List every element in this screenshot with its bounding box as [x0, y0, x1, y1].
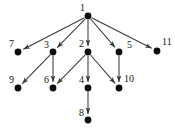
graph-edge	[91, 55, 115, 83]
graph-node-3[interactable]	[50, 49, 57, 56]
graph-node-label-8: 8	[79, 107, 84, 118]
graph-node-5[interactable]	[116, 49, 123, 56]
graph-node-label-6: 6	[44, 74, 49, 85]
label-layer: 1234567891011	[9, 2, 172, 118]
graph-node-label-11: 11	[162, 36, 172, 47]
graph-node-9[interactable]	[15, 85, 22, 92]
graph-node-label-10: 10	[124, 73, 134, 84]
directed-graph-figure: 1234567891011	[0, 0, 175, 132]
graph-node-label-4: 4	[79, 74, 84, 85]
graph-node-label-2: 2	[79, 38, 84, 49]
graph-node-label-3: 3	[44, 39, 49, 50]
graph-node-10[interactable]	[116, 85, 123, 92]
graph-edge	[92, 18, 152, 48]
graph-edge	[23, 18, 84, 49]
graph-node-label-9: 9	[9, 74, 14, 85]
graph-node-label-1: 1	[80, 2, 85, 13]
graph-node-7[interactable]	[15, 49, 22, 56]
graph-node-2[interactable]	[85, 49, 92, 56]
graph-node-label-7: 7	[9, 38, 14, 49]
graph-node-1[interactable]	[85, 13, 92, 20]
graph-node-4[interactable]	[85, 85, 92, 92]
graph-canvas: 1234567891011	[0, 0, 175, 132]
edge-layer	[22, 18, 151, 114]
graph-node-8[interactable]	[85, 117, 92, 124]
graph-node-11[interactable]	[154, 48, 161, 55]
graph-node-label-5: 5	[127, 39, 132, 50]
graph-node-6[interactable]	[50, 85, 57, 92]
